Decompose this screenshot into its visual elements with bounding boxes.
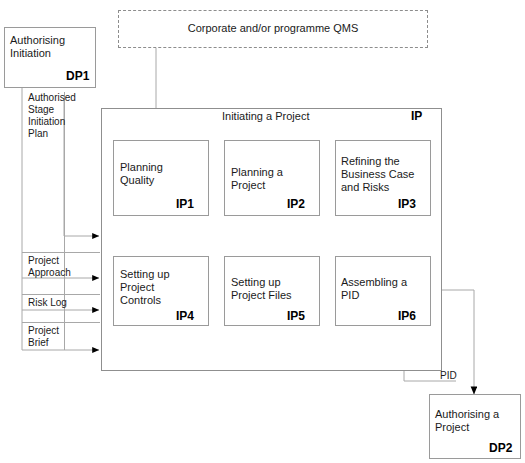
ip-container-code: IP [411,110,422,123]
process-code-ip2: IP2 [287,198,305,211]
process-label-ip5: Setting up Project Files [231,276,317,302]
dp2-box-code: DP2 [489,442,512,455]
input-separator-2 [22,294,100,295]
process-label-ip4: Setting up Project Controls [120,268,206,307]
input-separator-3 [22,322,100,323]
process-label-ip2: Planning a Project [231,166,317,192]
input-separator-1 [22,252,100,253]
process-code-ip3: IP3 [398,198,416,211]
ip-container-title: Initiating a Project [222,110,309,123]
input-label-project-brief: Project Brief [28,325,90,349]
input-label-authorised-stage-initiation-plan: Authorised Stage Initiation Plan [28,92,90,140]
input-label-risk-log: Risk Log [28,297,90,309]
process-label-ip1: Planning Quality [120,161,206,187]
dp1-box-code: DP1 [66,70,89,83]
output-label-pid: PID [440,370,457,382]
process-label-ip3: Refining the Business Case and Risks [341,155,431,194]
diagram-canvas: Corporate and/or programme QMS Authorisi… [0,0,525,463]
qms-box-label: Corporate and/or programme QMS [118,22,428,35]
process-code-ip1: IP1 [176,198,194,211]
process-code-ip6: IP6 [398,310,416,323]
input-label-project-approach: Project Approach [28,255,90,279]
process-code-ip5: IP5 [287,310,305,323]
process-label-ip6: Assembling a PID [341,276,429,302]
dp1-box-label: Authorising Initiation [10,34,94,60]
dp2-box-label: Authorising a Project [435,408,519,434]
process-code-ip4: IP4 [176,310,194,323]
